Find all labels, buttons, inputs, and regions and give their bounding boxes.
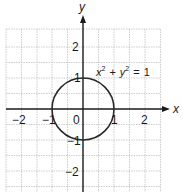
x-axis-arrow-icon [162, 106, 170, 112]
y-tick-label: −1 [67, 134, 81, 148]
y-tick-label: 2 [72, 40, 79, 54]
y-axis-arrow-icon [80, 15, 86, 23]
x-tick-label: 2 [141, 113, 148, 127]
y-tick-label: −2 [65, 165, 79, 179]
x-tick-label: −2 [12, 113, 26, 127]
y-axis-label: y [78, 0, 86, 14]
x-tick-label: −1 [42, 113, 56, 127]
unit-circle-diagram: x y −2 −1 0 1 2 2 1 −1 −2 x2+y2=1 [0, 0, 183, 194]
x-tick-label: 0 [73, 113, 80, 127]
y-tick-label: 1 [74, 71, 81, 85]
x-tick-label: 1 [111, 113, 118, 127]
x-axis-label: x [172, 102, 180, 116]
equation-label: x2+y2=1 [95, 65, 150, 78]
